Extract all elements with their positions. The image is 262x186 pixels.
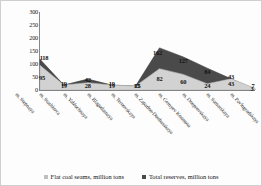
- flat-coal-seams-label: 7: [252, 83, 255, 89]
- x-axis-category-labels: m. Stepnayam. Stashkovam. Yablochnayam. …: [0, 90, 262, 148]
- y-tick-50: 50: [2, 74, 38, 80]
- x-category-label: m. Pavlogradskaya: [229, 92, 260, 124]
- y-tick-200: 200: [2, 35, 38, 41]
- legend-item-total-reserves: Total reserves, million tons: [142, 173, 218, 180]
- legend-label-flat-coal-seams: Flat coal seams, million tons: [51, 173, 124, 180]
- y-axis-tick-labels: 300 250 200 150 100 50 0: [0, 12, 38, 90]
- y-tick-100: 100: [2, 61, 38, 67]
- y-tick-300: 300: [2, 9, 38, 15]
- flat-coal-seams-label: 19: [61, 83, 67, 89]
- x-category-label: m. Blagodatnaya: [86, 92, 114, 121]
- total-reserves-label: 43: [228, 74, 234, 80]
- total-reserves-label: 162: [153, 50, 162, 56]
- total-reserves-label: 118: [40, 55, 49, 61]
- x-category-label: m. Yablochnaya: [62, 92, 89, 120]
- flat-coal-seams-label: 43: [228, 81, 234, 87]
- legend-item-flat-coal-seams: Flat coal seams, million tons: [44, 173, 124, 180]
- flat-coal-seams-label: 19: [109, 83, 115, 89]
- chart-legend: Flat coal seams, million tons Total rese…: [0, 173, 262, 180]
- flat-coal-seams-label: 28: [85, 83, 91, 89]
- series-areas: [40, 12, 255, 90]
- y-tick-250: 250: [2, 22, 38, 28]
- x-category-label: m. Stepnaya: [14, 92, 35, 114]
- y-tick-150: 150: [2, 48, 38, 54]
- x-category-label: m. Stashkova: [38, 92, 61, 116]
- flat-coal-seams-label: 15: [134, 83, 140, 89]
- legend-label-total-reserves: Total reserves, million tons: [149, 173, 218, 180]
- total-reserves-label: 84: [204, 69, 210, 75]
- legend-swatch-icon: [142, 175, 146, 179]
- total-reserves-label: 127: [179, 57, 188, 63]
- flat-coal-seams-label: 60: [180, 79, 186, 85]
- x-category-label: m. Samarskaya: [205, 92, 231, 119]
- area-chart: 300 250 200 150 100 50 0 118194219151621…: [0, 0, 262, 186]
- flat-coal-seams-label: 95: [39, 74, 45, 80]
- flat-coal-seams-label: 82: [156, 76, 162, 82]
- flat-coal-seams-label: 24: [204, 83, 210, 89]
- plot-area: 1181942191516212784433 95192819158260244…: [40, 12, 255, 90]
- legend-swatch-icon: [44, 175, 48, 179]
